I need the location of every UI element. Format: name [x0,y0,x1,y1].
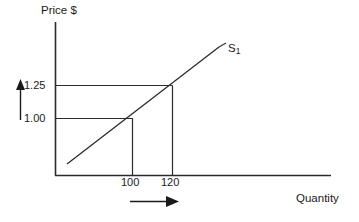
supply-curve-label-subscript: 1 [236,46,241,56]
supply-curve-chart: Price $ Quantity 1.25 1.00 100 120 S1 [0,0,359,222]
quantity-increase-arrow [130,196,179,207]
supply-curve-s1 [67,47,219,164]
y-axis-title: Price $ [41,4,77,16]
y-tick-label-125: 1.25 [24,79,45,91]
supply-curve-label-base: S [228,42,236,54]
y-tick-label-100: 1.00 [24,112,45,124]
x-tick-label-100: 100 [121,176,139,188]
x-tick-label-120: 120 [161,176,179,188]
supply-curve-label: S1 [228,42,240,55]
supply-curve-label-leader [219,43,226,47]
x-axis-title: Quantity [296,192,339,204]
chart-canvas [0,0,359,222]
